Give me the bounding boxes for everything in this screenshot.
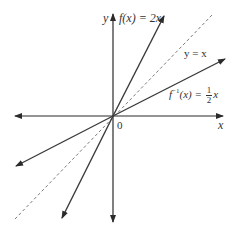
inverse-sup: −1: [172, 87, 179, 95]
fraction-half: 12: [206, 86, 213, 105]
line-inverse-half-x-negative: [16, 116, 113, 166]
y-axis-label: y: [103, 12, 108, 24]
line-f-2x: [113, 16, 164, 116]
fraction-denominator: 2: [207, 96, 212, 105]
inverse-arg: (x) =: [180, 88, 205, 100]
graph-canvas: [0, 0, 236, 229]
origin-label: 0: [117, 120, 123, 131]
inverse-var: x: [213, 88, 218, 100]
x-axis-label: x: [218, 119, 223, 131]
line-f-2x-negative: [62, 116, 113, 218]
label-identity: y = x: [184, 48, 207, 59]
label-f-2x: f(x) = 2x: [119, 12, 161, 24]
label-inverse: f−1(x) = 12x: [169, 86, 218, 105]
